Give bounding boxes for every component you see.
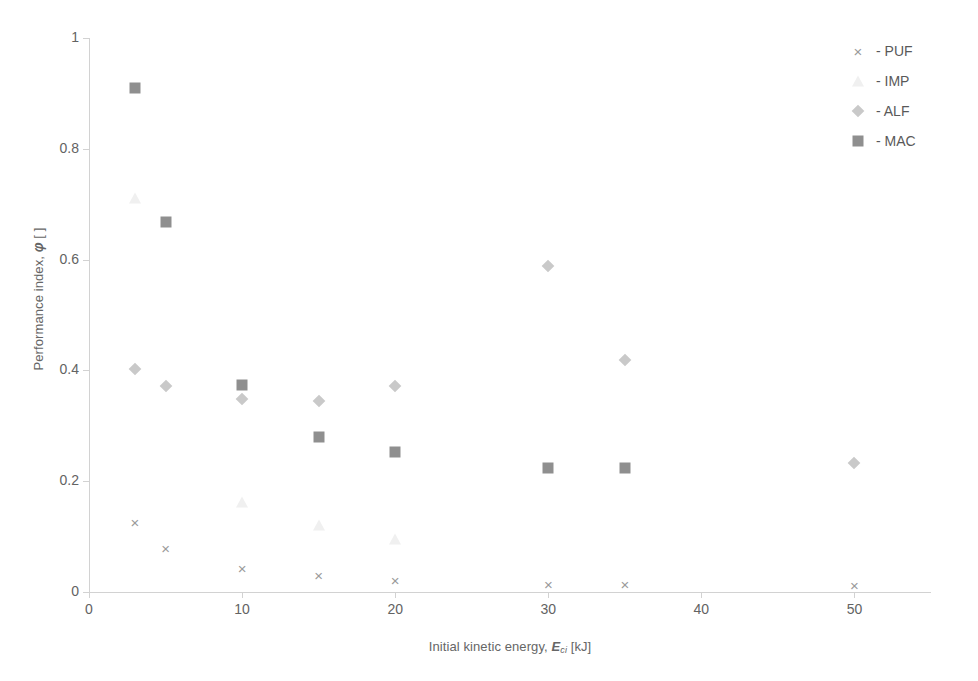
chart-legend: ×- PUF- IMP- ALF- MAC — [846, 36, 978, 156]
diamond-marker-glyph — [852, 105, 865, 118]
x-tick-label: 20 — [365, 601, 425, 617]
data-point-puf[interactable]: × — [128, 515, 141, 528]
x-tick-label: 40 — [671, 601, 731, 617]
data-point-imp[interactable] — [129, 192, 141, 203]
plot-area: ×××××××× — [89, 38, 931, 592]
data-point-puf[interactable]: × — [542, 578, 555, 591]
x-axis-line — [89, 592, 931, 593]
legend-label: - PUF — [870, 43, 913, 59]
x-tick-label: 10 — [212, 601, 272, 617]
data-point-imp[interactable] — [313, 519, 325, 530]
data-point-alf[interactable] — [312, 394, 325, 407]
x-axis-title-prefix: Initial kinetic energy, — [429, 639, 552, 654]
x-tick-label: 30 — [518, 601, 578, 617]
legend-label: - MAC — [870, 133, 916, 149]
y-axis-title-suffix: [ ] — [31, 227, 46, 242]
data-point-puf[interactable]: × — [389, 574, 402, 587]
data-point-imp[interactable] — [389, 534, 401, 545]
legend-label: - ALF — [870, 103, 909, 119]
x-tick-mark — [242, 592, 243, 598]
triangle-marker-glyph — [852, 76, 864, 87]
y-tick-label: 0.6 — [19, 251, 79, 267]
x-tick-mark — [548, 592, 549, 598]
scatter-chart: Performance index, φ [ ] Initial kinetic… — [0, 0, 978, 681]
y-tick-label: 0 — [19, 583, 79, 599]
legend-label: - IMP — [870, 73, 909, 89]
x-tick-mark — [701, 592, 702, 598]
y-axis-title-prefix: Performance index, — [31, 252, 46, 370]
x-tick-label: 50 — [824, 601, 884, 617]
cross-marker-glyph: × — [852, 45, 865, 58]
x-tick-mark — [89, 592, 90, 598]
cross-marker: × — [846, 42, 870, 60]
data-point-mac[interactable] — [160, 216, 171, 227]
data-point-alf[interactable] — [618, 354, 631, 367]
data-point-puf[interactable]: × — [159, 542, 172, 555]
data-point-alf[interactable] — [236, 393, 249, 406]
data-point-mac[interactable] — [129, 82, 140, 93]
data-point-puf[interactable]: × — [618, 578, 631, 591]
legend-item-alf[interactable]: - ALF — [846, 96, 978, 126]
data-point-puf[interactable]: × — [848, 578, 861, 591]
data-point-alf[interactable] — [542, 259, 555, 272]
data-point-puf[interactable]: × — [312, 568, 325, 581]
legend-item-mac[interactable]: - MAC — [846, 126, 978, 156]
data-point-mac[interactable] — [543, 463, 554, 474]
energy-symbol: E — [552, 639, 561, 654]
data-point-puf[interactable]: × — [236, 561, 249, 574]
data-point-alf[interactable] — [129, 363, 142, 376]
data-point-alf[interactable] — [159, 380, 172, 393]
triangle-marker — [846, 72, 870, 90]
x-axis-title: Initial kinetic energy, Eci [kJ] — [89, 639, 931, 655]
square-marker — [846, 132, 870, 150]
energy-subscript: ci — [560, 645, 567, 655]
y-tick-label: 0.8 — [19, 140, 79, 156]
x-tick-label: 0 — [59, 601, 119, 617]
y-tick-label: 0.2 — [19, 472, 79, 488]
diamond-marker — [846, 102, 870, 120]
y-axis-title: Performance index, φ [ ] — [30, 169, 46, 429]
y-tick-label: 1 — [19, 29, 79, 45]
data-point-imp[interactable] — [236, 497, 248, 508]
legend-item-imp[interactable]: - IMP — [846, 66, 978, 96]
data-point-mac[interactable] — [237, 380, 248, 391]
x-tick-mark — [395, 592, 396, 598]
legend-item-puf[interactable]: ×- PUF — [846, 36, 978, 66]
data-point-mac[interactable] — [619, 463, 630, 474]
data-point-alf[interactable] — [389, 380, 402, 393]
data-point-mac[interactable] — [390, 446, 401, 457]
data-point-mac[interactable] — [313, 432, 324, 443]
x-axis-title-suffix: [kJ] — [567, 639, 591, 654]
square-marker-glyph — [853, 136, 864, 147]
data-point-alf[interactable] — [848, 457, 861, 470]
y-tick-label: 0.4 — [19, 361, 79, 377]
